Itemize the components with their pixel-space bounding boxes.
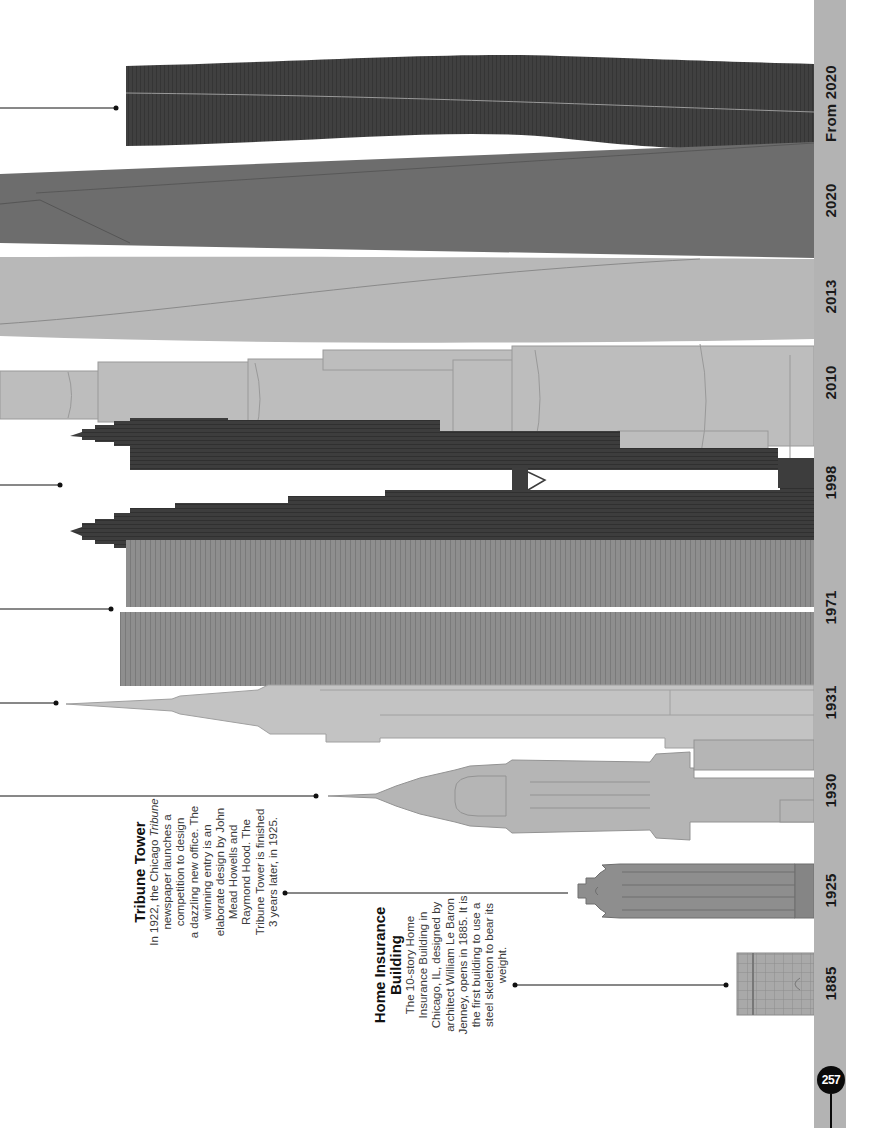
building-1931 (66, 685, 814, 748)
callout-title: Tribune Tower (132, 772, 148, 972)
callout-tribune-tower: Tribune Tower In 1922, the Chicago Tribu… (132, 772, 280, 972)
building-1930 (328, 740, 814, 840)
year-label-1971: 1971 (814, 577, 846, 637)
year-label-2013: 2013 (814, 266, 846, 326)
year-label-2020: 2020 (814, 170, 846, 230)
leader-line-1998 (0, 483, 63, 488)
page-number-stem (830, 1094, 832, 1128)
year-label-1931: 1931 (814, 672, 846, 732)
leader-line-from-2020 (0, 106, 119, 111)
callout-body: The 10-story Home Insurance Building in … (404, 880, 510, 1050)
callout-home-insurance-building: Home Insurance Building The 10-story Hom… (372, 880, 510, 1050)
building-1971 (120, 540, 814, 686)
leader-line-home-insurance (513, 983, 729, 988)
page-number-badge: 257 (817, 1066, 845, 1094)
callout-title: Home Insurance Building (372, 880, 404, 1050)
leader-line-1931 (0, 701, 59, 706)
building-2013 (0, 257, 814, 343)
year-label-from-2020: From 2020 (814, 63, 846, 143)
year-label-1885: 1885 (814, 953, 846, 1013)
year-label-2010: 2010 (814, 352, 846, 412)
building-2020 (0, 142, 814, 258)
year-label-1930: 1930 (814, 760, 846, 820)
year-label-1925: 1925 (814, 860, 846, 920)
building-1885 (737, 953, 814, 1015)
year-label-1998: 1998 (814, 452, 846, 512)
callout-body: In 1922, the Chicago Tribune newspaper l… (148, 772, 280, 972)
building-1925 (578, 864, 814, 918)
leader-line-1971 (0, 607, 114, 612)
building-from-2020 (126, 55, 814, 149)
